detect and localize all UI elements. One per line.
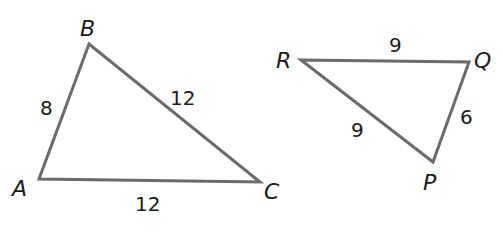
side-label-rq: 9	[389, 33, 402, 57]
vertex-label-q: Q	[474, 48, 491, 73]
triangle-rqp: R Q P 9 9 6	[276, 33, 491, 195]
vertex-label-a: A	[10, 176, 27, 201]
vertex-label-b: B	[80, 16, 95, 41]
side-label-ab: 8	[40, 96, 53, 120]
triangle-rqp-shape	[301, 60, 469, 162]
triangle-abc-shape	[39, 44, 260, 182]
side-label-rp: 9	[351, 118, 364, 142]
side-label-qp: 6	[460, 105, 473, 129]
similar-triangles-diagram: A B C 8 12 12 R Q P 9 9 6	[0, 0, 503, 233]
vertex-label-r: R	[276, 48, 291, 73]
side-label-bc: 12	[170, 86, 195, 110]
vertex-label-c: C	[264, 179, 280, 204]
vertex-label-p: P	[423, 170, 437, 195]
side-label-ac: 12	[135, 192, 160, 216]
triangle-abc: A B C 8 12 12	[10, 16, 280, 216]
